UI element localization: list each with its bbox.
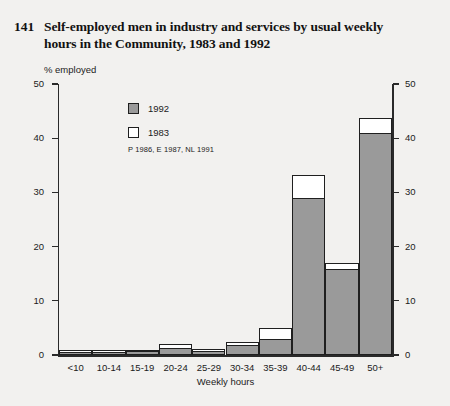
bar-1992-<10[interactable] — [59, 352, 92, 355]
x-tick-label-40-44: 40-44 — [292, 362, 325, 373]
bar-1992-50+[interactable] — [359, 133, 392, 355]
y-tick-label-right-0: 0 — [405, 350, 431, 360]
y-tick-label-left-30: 30 — [18, 187, 44, 197]
y-tick-left-40 — [52, 138, 58, 139]
bar-1992-20-24[interactable] — [159, 348, 192, 355]
y-axis-left-line — [58, 84, 60, 355]
y-tick-left-10 — [52, 300, 58, 301]
x-tick-label-<10: <10 — [59, 362, 92, 373]
bar-1992-30-34[interactable] — [226, 345, 259, 355]
x-tick-label-20-24: 20-24 — [159, 362, 192, 373]
y-tick-label-right-50: 50 — [405, 79, 431, 89]
y-tick-label-left-40: 40 — [18, 133, 44, 143]
y-tick-right-10 — [393, 300, 399, 301]
y-tick-right-30 — [393, 192, 399, 193]
y-tick-right-50 — [393, 83, 399, 84]
bar-1992-40-44[interactable] — [292, 198, 325, 355]
y-tick-left-20 — [52, 246, 58, 247]
y-tick-left-30 — [52, 192, 58, 193]
y-tick-label-left-20: 20 — [18, 242, 44, 252]
legend-swatch-hollow-icon — [128, 127, 139, 138]
y-tick-left-50 — [52, 83, 58, 84]
legend-item-1992: 1992 — [128, 103, 214, 114]
bar-1992-45-49[interactable] — [325, 269, 358, 355]
bar-1992-35-39[interactable] — [259, 339, 292, 355]
y-tick-label-left-0: 0 — [18, 350, 44, 360]
legend-swatch-filled-icon — [128, 103, 139, 114]
x-tick-label-35-39: 35-39 — [259, 362, 292, 373]
chart-number: 141 — [14, 18, 44, 35]
y-tick-label-right-10: 10 — [405, 296, 431, 306]
y-tick-right-0 — [393, 354, 399, 355]
x-tick-label-45-49: 45-49 — [325, 362, 358, 373]
bar-1992-10-14[interactable] — [92, 352, 125, 355]
x-tick-label-25-29: 25-29 — [192, 362, 225, 373]
x-tick-label-50+: 50+ — [359, 362, 392, 373]
x-tick-label-30-34: 30-34 — [226, 362, 259, 373]
y-tick-left-0 — [52, 354, 58, 355]
y-tick-label-right-20: 20 — [405, 242, 431, 252]
bar-1992-15-19[interactable] — [126, 351, 159, 355]
x-tick-label-15-19: 15-19 — [126, 362, 159, 373]
chart-legend: 1992 1983 P 1986, E 1987, NL 1991 — [128, 103, 214, 154]
y-axis-label: % employed — [44, 64, 96, 75]
legend-label-1983: 1983 — [148, 127, 169, 138]
page-title: Self-employed men in industry and servic… — [44, 18, 414, 52]
x-tick-label-10-14: 10-14 — [92, 362, 125, 373]
y-tick-label-left-10: 10 — [18, 296, 44, 306]
plot-area: 0010102020303040405050 <1010-1415-1920-2… — [59, 84, 392, 355]
x-axis-title: Weekly hours — [59, 376, 392, 387]
y-tick-label-right-40: 40 — [405, 133, 431, 143]
y-axis-right-line — [392, 84, 394, 355]
chart-container: % employed 0010102020303040405050 <1010-… — [0, 60, 450, 406]
y-tick-right-40 — [393, 138, 399, 139]
y-tick-right-20 — [393, 246, 399, 247]
legend-label-1992: 1992 — [148, 103, 169, 114]
legend-item-1983: 1983 — [128, 127, 214, 138]
bar-1992-25-29[interactable] — [192, 351, 225, 355]
legend-footnote: P 1986, E 1987, NL 1991 — [128, 145, 214, 154]
x-axis-line — [58, 355, 394, 357]
y-tick-label-left-50: 50 — [18, 79, 44, 89]
y-tick-label-right-30: 30 — [405, 187, 431, 197]
chart-title-block: 141 Self-employed men in industry and se… — [14, 18, 434, 52]
